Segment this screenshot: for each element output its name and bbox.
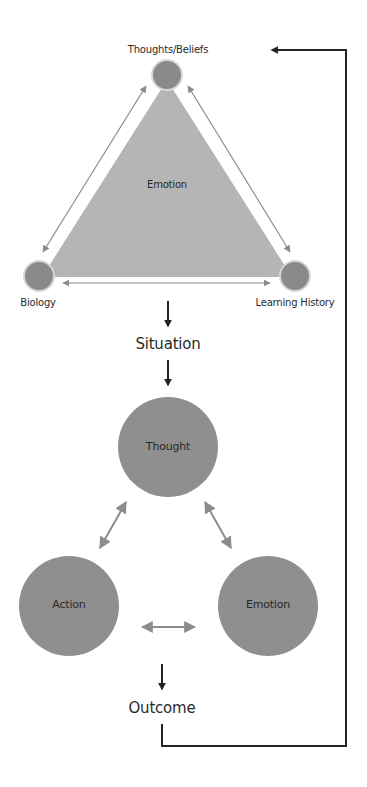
label-outcome: Outcome [128, 699, 195, 717]
arrow-thought-emotion [205, 502, 231, 548]
label-learning-history: Learning History [256, 297, 335, 308]
node-learning-history [280, 261, 310, 291]
node-thoughts-beliefs [152, 60, 182, 90]
diagram-canvas [0, 0, 367, 787]
label-biology: Biology [20, 297, 56, 308]
node-biology [24, 261, 54, 291]
label-situation: Situation [135, 335, 200, 353]
label-thought: Thought [146, 440, 190, 453]
arrow-thought-action [100, 502, 126, 548]
label-thoughts-beliefs: Thoughts/Beliefs [128, 44, 208, 55]
label-emotion: Emotion [246, 598, 290, 611]
label-action: Action [52, 598, 85, 611]
label-center-emotion: Emotion [147, 179, 187, 190]
